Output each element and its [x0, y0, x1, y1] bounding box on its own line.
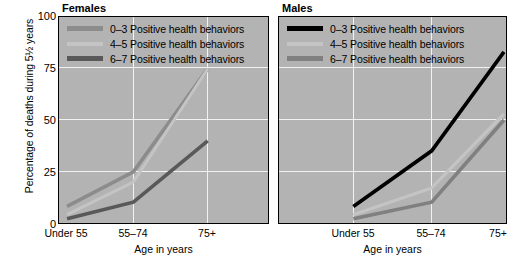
legend-label-males-6-7: 6–7 Positive health behaviors	[330, 53, 464, 65]
legend-swatch-females-4-5	[67, 42, 103, 46]
legend-item-females-6-7: 6–7 Positive health behaviors	[67, 51, 244, 66]
x-axis-title-females: Age in years	[58, 243, 269, 255]
legend-item-males-0-3: 0–3 Positive health behaviors	[287, 21, 464, 36]
series-line-females-6-7	[67, 141, 208, 219]
y-tick-50: 50	[26, 115, 56, 126]
y-tick-75: 75	[26, 63, 56, 74]
legend-swatch-males-6-7	[287, 56, 323, 61]
x-tick-males-under-55: Under 55	[331, 227, 374, 239]
series-line-females-4-5	[67, 69, 208, 215]
x-tick-males-55-74: 55–74	[416, 227, 445, 239]
legend-item-females-4-5: 4–5 Positive health behaviors	[67, 36, 244, 51]
x-tick-males-75plus: 75+	[489, 227, 507, 239]
legend-item-males-4-5: 4–5 Positive health behaviors	[287, 36, 464, 51]
figure-chart-positive-health-behaviors: Percentage of deaths during 5½ years 100…	[0, 0, 521, 271]
legend-females: 0–3 Positive health behaviors 4–5 Positi…	[67, 21, 244, 66]
legend-item-females-0-3: 0–3 Positive health behaviors	[67, 21, 244, 36]
x-axis-tick-labels-females: Under 55 55–74 75+	[58, 227, 269, 241]
y-tick-100: 100	[26, 11, 56, 22]
series-line-females-0-3	[67, 69, 208, 207]
x-tick-females-75plus: 75+	[198, 227, 216, 239]
x-axis-title-males: Age in years	[278, 243, 507, 255]
legend-label-females-6-7: 6–7 Positive health behaviors	[110, 53, 244, 65]
legend-swatch-females-0-3	[67, 26, 103, 31]
y-axis-tick-labels: 100 75 50 25 0	[26, 16, 56, 224]
series-line-males-0-3	[353, 52, 504, 207]
x-tick-females-under-55: Under 55	[44, 227, 87, 239]
legend-males: 0–3 Positive health behaviors 4–5 Positi…	[287, 21, 464, 66]
legend-swatch-males-0-3	[287, 26, 323, 31]
plot-area-females: 0–3 Positive health behaviors 4–5 Positi…	[58, 16, 269, 224]
legend-swatch-males-4-5	[287, 42, 323, 46]
y-tick-25: 25	[26, 167, 56, 178]
series-line-males-4-5	[353, 114, 504, 215]
legend-swatch-females-6-7	[67, 56, 103, 61]
x-axis-tick-labels-males: Under 55 55–74 75+	[278, 227, 507, 241]
legend-label-males-0-3: 0–3 Positive health behaviors	[330, 23, 464, 35]
legend-label-females-4-5: 4–5 Positive health behaviors	[110, 38, 244, 50]
panel-title-males: Males	[282, 2, 313, 14]
panel-title-females: Females	[62, 2, 106, 14]
legend-label-females-0-3: 0–3 Positive health behaviors	[110, 23, 244, 35]
plot-area-males: 0–3 Positive health behaviors 4–5 Positi…	[278, 16, 507, 224]
legend-label-males-4-5: 4–5 Positive health behaviors	[330, 38, 464, 50]
legend-item-males-6-7: 6–7 Positive health behaviors	[287, 51, 464, 66]
x-tick-females-55-74: 55–74	[118, 227, 147, 239]
